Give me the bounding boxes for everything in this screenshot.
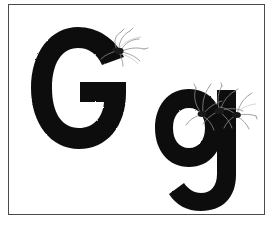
card-border-frame (8, 4, 265, 215)
gnat-cluster-on-lowercase-g (181, 83, 257, 133)
gnat-body (232, 112, 241, 118)
insect-name: gnat (0, 0, 1, 1)
gnat-body (215, 108, 225, 114)
gnat-body (198, 111, 207, 117)
lowercase-letter-value: g (0, 0, 1, 1)
card-alt-text: Letter G and letter g in heavy black typ… (0, 0, 1, 1)
letter-stage (9, 5, 264, 214)
flashcard: Letter G and letter g in heavy black typ… (0, 0, 275, 225)
gnat-cluster-on-uppercase-g (97, 26, 153, 68)
gnat-icon (181, 83, 257, 133)
uppercase-letter-value: G (0, 0, 1, 1)
gnat-head (112, 48, 116, 52)
gnat-icon (97, 26, 153, 68)
